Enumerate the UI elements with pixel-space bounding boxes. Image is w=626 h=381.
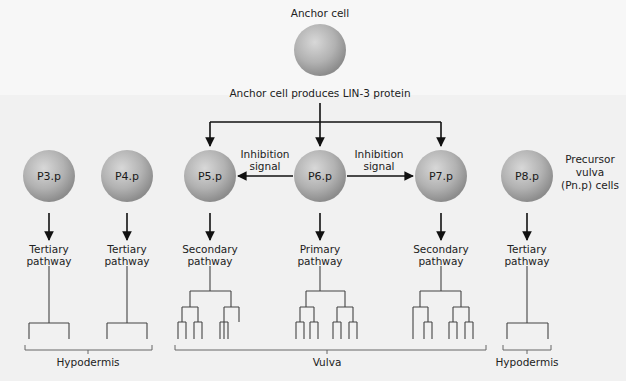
inhibition-signal-left: Inhibition signal: [238, 148, 293, 176]
cell-label: P3.p: [37, 170, 61, 183]
tissue-label: Hypodermis: [495, 356, 558, 368]
svg-text:signal: signal: [249, 160, 280, 172]
cell-label: P7.p: [429, 170, 453, 183]
tissue-label: Hypodermis: [56, 356, 119, 368]
pathway-label-line1: Tertiary: [28, 243, 68, 255]
pathway-label-line1: Tertiary: [106, 243, 146, 255]
tissue-label: Vulva: [313, 356, 342, 368]
anchor-cell-title: Anchor cell: [291, 7, 349, 19]
cell-label: P4.p: [115, 170, 139, 183]
pathway-label-line1: Primary: [300, 243, 341, 255]
cell-label: P6.p: [308, 170, 332, 183]
vulval-induction-diagram: Anchor cell Anchor cell produces LIN-3 p…: [0, 0, 626, 381]
precursor-cell-p7p: P7.pSecondarypathway: [413, 150, 469, 267]
tissue-bracket-hypodermis: Hypodermis: [495, 345, 558, 368]
pathway-label-line2: pathway: [418, 255, 463, 267]
lin3-signal-arrows: [210, 103, 441, 146]
precursor-cell-p6p: P6.pPrimarypathway: [294, 150, 346, 267]
precursor-cell-p3p: P3.pTertiarypathway: [23, 150, 75, 267]
precursor-cell-p4p: P4.pTertiarypathway: [101, 150, 153, 267]
svg-text:signal: signal: [363, 160, 394, 172]
precursor-cell-p5p: P5.pSecondarypathway: [182, 150, 238, 267]
cell-label: P5.p: [198, 170, 222, 183]
pathway-label-line2: pathway: [297, 255, 342, 267]
svg-text:vulva: vulva: [576, 166, 604, 178]
lineage-trees: [29, 266, 548, 339]
pathway-label-line2: pathway: [504, 255, 549, 267]
pathway-label-line2: pathway: [187, 255, 232, 267]
tissue-bracket-vulva: Vulva: [175, 345, 486, 368]
inhibition-signal-right: Inhibition signal: [347, 148, 413, 176]
precursor-vulva-label: Precursor vulva (Pn.p) cells: [561, 153, 619, 191]
svg-text:Inhibition: Inhibition: [240, 148, 289, 160]
pathway-label-line2: pathway: [26, 255, 71, 267]
pathway-label-line2: pathway: [104, 255, 149, 267]
tissue-bracket-hypodermis: Hypodermis: [25, 345, 152, 368]
svg-text:(Pn.p) cells: (Pn.p) cells: [561, 179, 619, 191]
precursor-cell-p8p: P8.pTertiarypathway: [501, 150, 553, 267]
pathway-label-line1: Secondary: [413, 243, 469, 255]
svg-text:Inhibition: Inhibition: [354, 148, 403, 160]
anchor-cell: [294, 24, 346, 76]
cell-label: P8.p: [515, 170, 539, 183]
svg-text:Precursor: Precursor: [565, 153, 615, 165]
pathway-label-line1: Tertiary: [506, 243, 546, 255]
pathway-label-line1: Secondary: [182, 243, 238, 255]
anchor-cell-caption: Anchor cell produces LIN-3 protein: [229, 87, 410, 99]
